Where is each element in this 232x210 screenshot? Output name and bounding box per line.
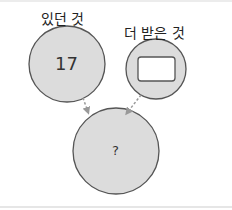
right-node-label: 더 받은 것 bbox=[124, 22, 185, 42]
bottom-divider bbox=[0, 206, 232, 208]
left-node-label: 있던 것 bbox=[41, 8, 84, 28]
arrow-left-to-result bbox=[83, 98, 88, 112]
empty-box-icon bbox=[138, 57, 175, 81]
arrow-right-to-result bbox=[127, 95, 141, 113]
result-node-value: ? bbox=[112, 143, 119, 158]
left-node-value: 17 bbox=[55, 53, 78, 74]
diagram-canvas bbox=[0, 0, 232, 210]
